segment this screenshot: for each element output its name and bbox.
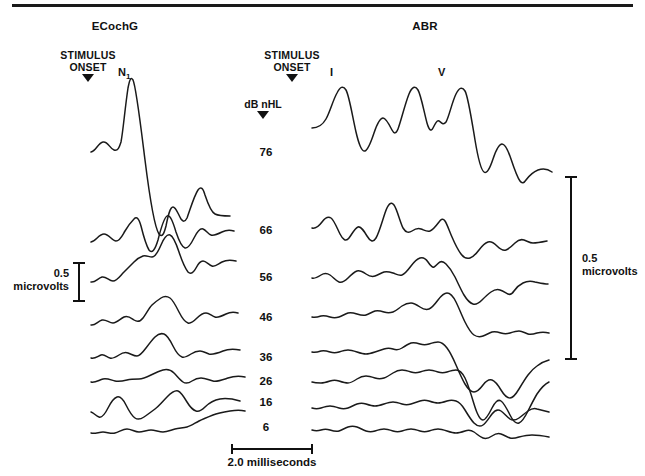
stimulus-onset-line1: STIMULUS [264,49,319,61]
ecochg-trace-66db [91,216,234,252]
scale-bar-line [231,448,313,450]
ecochg-trace-16db [91,391,240,419]
ecochg-trace-56db [91,235,236,282]
peak-label-n1-subscript: 1 [126,72,130,81]
scale-bar-line [570,176,572,360]
down-triangle-marker-icon [286,74,298,82]
intensity-level-76: 76 [242,146,290,158]
panel-title-ecochg: ECochG [0,20,230,32]
vertical-scale-unit: microvolts [582,265,638,277]
abr-trace-56db [312,258,548,305]
peak-label-wave-i: I [330,66,333,78]
ecochg-trace-group [91,79,245,434]
scale-bar-cap-top [565,176,577,178]
ecochg-trace-36db [91,334,240,359]
down-triangle-marker-icon [82,74,94,82]
top-divider-rule [12,4,633,7]
abr-trace-76db [312,87,552,183]
abr-trace-66db [312,203,547,258]
intensity-axis-header: dB nHL [228,98,298,119]
abr-trace-46db [312,293,549,337]
panel-title-abr: ABR [310,20,540,32]
intensity-level-16: 16 [242,396,290,408]
peak-label-n1-text: N [118,66,126,78]
figure-ecochg-abr-waveforms: ECochG ABR STIMULUS ONSET STIMULUS ONSET… [0,0,645,476]
scale-bar-cap-bottom [565,358,577,360]
intensity-level-66: 66 [242,224,290,236]
abr-trace-26db [312,370,549,423]
stimulus-onset-label-abr: STIMULUS ONSET [242,50,342,82]
intensity-level-56: 56 [242,271,290,283]
vertical-scale-unit: microvolts [13,280,69,292]
down-triangle-marker-icon [257,111,269,119]
ecochg-trace-76db [91,79,230,236]
scale-bar-cap-bottom [73,300,85,302]
scale-bar-line [78,262,80,302]
horizontal-scale-bar: 2.0 milliseconds [231,448,313,449]
scale-bar-cap-left [231,444,233,454]
ecochg-trace-46db [91,297,238,326]
peak-label-n1: N1 [118,66,130,81]
peak-label-wave-v: V [438,66,445,78]
horizontal-scale-label: 2.0 milliseconds [228,456,317,468]
vertical-scale-label-left: 0.5 microvolts [13,267,69,293]
abr-trace-6db [312,426,549,438]
intensity-axis-header-text: dB nHL [244,98,281,110]
vertical-scale-label-right: 0.5 microvolts [582,252,638,278]
abr-trace-36db [312,342,549,398]
scale-bar-cap-right [311,444,313,454]
intensity-level-46: 46 [242,311,290,323]
abr-trace-group [312,87,552,438]
stimulus-onset-line2: ONSET [242,62,342,74]
intensity-level-6: 6 [242,421,290,433]
vertical-scale-value: 0.5 [54,267,69,279]
vertical-scale-value: 0.5 [582,252,597,264]
scale-bar-cap-top [73,262,85,264]
ecochg-trace-26db [91,370,245,383]
abr-trace-16db [312,400,549,426]
stimulus-onset-line1: STIMULUS [60,49,115,61]
ecochg-trace-6db [91,410,245,433]
intensity-level-26: 26 [242,375,290,387]
intensity-level-36: 36 [242,351,290,363]
